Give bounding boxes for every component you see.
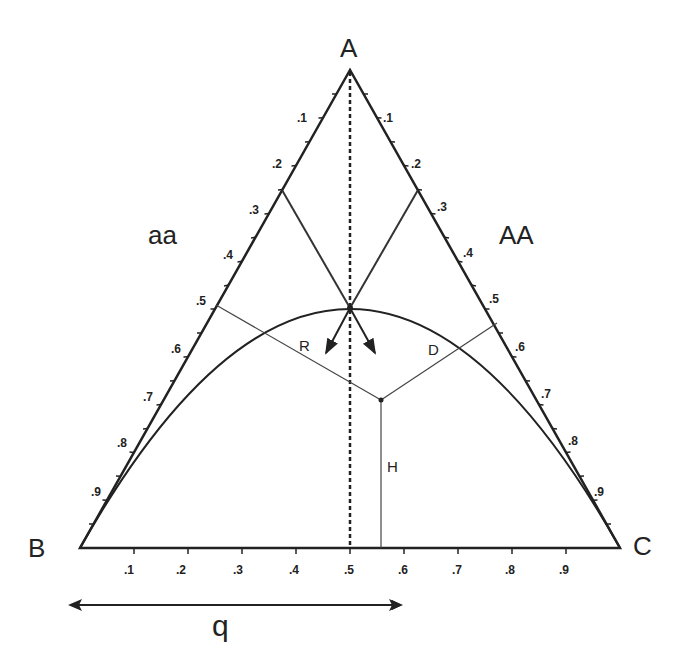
svg-text:.8: .8 [568, 434, 578, 448]
h-label: H [387, 458, 398, 475]
vertex-a-label: A [340, 33, 358, 63]
right-projection-line [350, 190, 418, 308]
region-aa-label: aa [148, 220, 177, 250]
svg-text:.4: .4 [223, 248, 233, 262]
svg-text:.8: .8 [117, 436, 127, 450]
arrow-left [326, 308, 350, 353]
svg-text:.4: .4 [463, 246, 473, 260]
peak-point [347, 305, 353, 311]
bottom-tick-labels: .1 .2 .3 .4 .5 .6 .7 .8 .9 [124, 563, 569, 577]
region-AA-label: AA [499, 220, 534, 250]
svg-text:.7: .7 [541, 387, 551, 401]
svg-text:.2: .2 [272, 157, 282, 171]
svg-text:.3: .3 [233, 563, 243, 577]
svg-text:.9: .9 [559, 563, 569, 577]
svg-text:.6: .6 [515, 340, 525, 354]
svg-text:.3: .3 [437, 200, 447, 214]
right-tick-labels: .1 .2 .3 .4 .5 .6 .7 .8 .9 [383, 111, 604, 499]
r-label: R [299, 337, 310, 354]
svg-text:.5: .5 [489, 292, 499, 306]
svg-text:.5: .5 [196, 294, 206, 308]
left-projection-line [282, 190, 350, 308]
de-finetti-diagram: A B C aa AA .1 .2 .3 .4 .5 .6 .7 .8 .9 .… [0, 0, 685, 665]
svg-text:.6: .6 [171, 342, 181, 356]
arrow-right [350, 308, 375, 353]
hardy-weinberg-curve [80, 309, 620, 548]
svg-text:.2: .2 [176, 563, 186, 577]
vertex-c-label: C [633, 531, 652, 561]
svg-text:.1: .1 [297, 111, 307, 125]
svg-text:.8: .8 [505, 563, 515, 577]
svg-text:.1: .1 [383, 111, 393, 125]
svg-text:.7: .7 [143, 390, 153, 404]
svg-text:.9: .9 [594, 485, 604, 499]
q-label: q [212, 609, 229, 642]
svg-text:.4: .4 [289, 563, 299, 577]
svg-text:.7: .7 [452, 563, 462, 577]
svg-text:.5: .5 [344, 563, 354, 577]
vertex-b-label: B [28, 533, 45, 563]
population-point [379, 398, 384, 403]
d-label: D [428, 341, 439, 358]
svg-text:.3: .3 [249, 203, 259, 217]
left-tick-labels: .1 .2 .3 .4 .5 .6 .7 .8 .9 [91, 111, 307, 499]
svg-text:.9: .9 [91, 485, 101, 499]
svg-text:.6: .6 [398, 563, 408, 577]
svg-text:.2: .2 [411, 157, 421, 171]
svg-text:.1: .1 [124, 563, 134, 577]
